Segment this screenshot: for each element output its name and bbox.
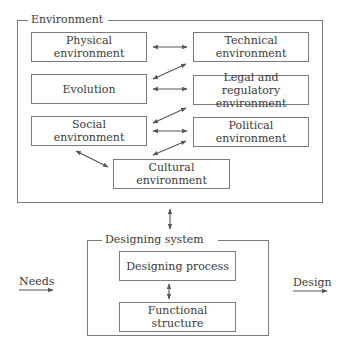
social-line-2: environment bbox=[54, 131, 125, 144]
cultural-environment-box: Cultural environment bbox=[113, 159, 230, 189]
designing-system-label: Designing system bbox=[102, 234, 218, 246]
functional-structure-label: Functional structure bbox=[120, 304, 235, 330]
legal-line-1: Legal and regulatory bbox=[194, 71, 308, 97]
legal-regulatory-environment-box: Legal and regulatory environment bbox=[193, 75, 309, 105]
cultural-line-1: Cultural bbox=[136, 161, 207, 174]
needs-label: Needs bbox=[19, 276, 54, 288]
cultural-line-2: environment bbox=[136, 174, 207, 187]
political-line-1: Political bbox=[216, 119, 287, 132]
physical-line-1: Physical bbox=[54, 34, 125, 47]
design-label: Design bbox=[293, 277, 332, 289]
designing-process-box: Designing process bbox=[119, 251, 236, 281]
physical-line-2: environment bbox=[54, 47, 125, 60]
technical-line-2: environment bbox=[216, 47, 287, 60]
political-environment-box: Political environment bbox=[193, 117, 309, 147]
environment-label: Environment bbox=[28, 14, 108, 26]
evolution-label: Evolution bbox=[62, 83, 115, 96]
functional-structure-box: Functional structure bbox=[119, 302, 236, 332]
political-line-2: environment bbox=[216, 132, 287, 145]
designing-process-label: Designing process bbox=[126, 260, 229, 273]
social-environment-box: Social environment bbox=[31, 116, 147, 146]
technical-line-1: Technical bbox=[216, 34, 287, 47]
legal-line-2: environment bbox=[194, 97, 308, 110]
physical-environment-box: Physical environment bbox=[31, 32, 147, 62]
social-line-1: Social bbox=[54, 118, 125, 131]
evolution-box: Evolution bbox=[31, 74, 147, 104]
technical-environment-box: Technical environment bbox=[193, 32, 309, 62]
